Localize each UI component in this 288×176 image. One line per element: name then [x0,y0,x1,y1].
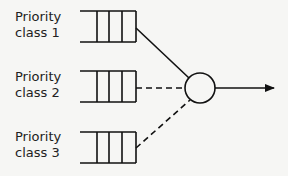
queue-2 [80,71,136,102]
queue-3 [80,132,136,163]
link-queue-3 [136,100,190,148]
scheduler-node [185,73,215,103]
scheduler-diagram [0,0,288,176]
link-queue-1 [136,28,189,78]
queue-1 [80,11,136,42]
